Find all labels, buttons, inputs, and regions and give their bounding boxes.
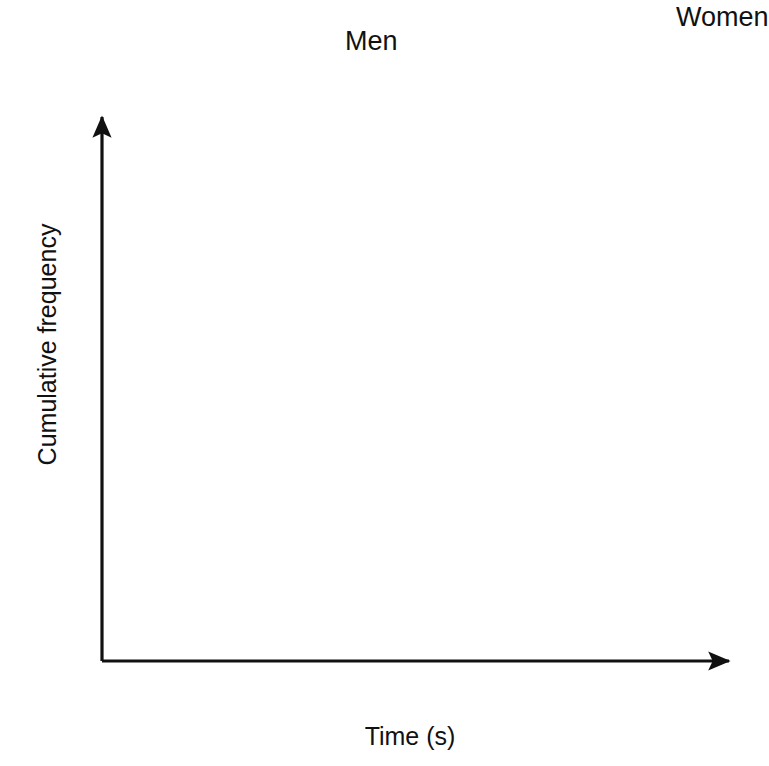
- series-label-men: Men: [345, 26, 398, 57]
- x-axis-title: Time (s): [300, 722, 520, 751]
- series-label-women: Women: [676, 2, 769, 33]
- axis-lines: [102, 117, 729, 661]
- y-axis-title: Cumulative frequency: [33, 215, 62, 475]
